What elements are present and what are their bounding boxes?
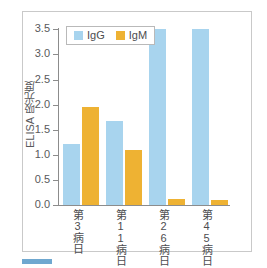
y-tick-label: 2.0 <box>35 99 50 110</box>
y-tick: 2.0 <box>53 105 58 106</box>
bar-igm <box>168 199 185 205</box>
figure-root: ELISA 吸光度 3.5 3.0 2.5 2.0 1.5 1.0 0.5 0.… <box>0 0 267 268</box>
x-axis-label: 第11病日 <box>114 209 126 257</box>
y-tick: 1.0 <box>53 155 58 156</box>
x-axis-line <box>58 205 230 206</box>
y-tick-label: 0.0 <box>35 199 50 210</box>
legend-swatch-icon <box>116 31 125 40</box>
y-tick: 2.5 <box>53 80 58 81</box>
legend-item-igm: IgM <box>116 30 147 41</box>
bar-igg <box>63 144 80 205</box>
bar-igm <box>82 107 99 205</box>
bar-group <box>59 29 102 205</box>
legend-label: IgM <box>129 30 147 41</box>
bar-group <box>102 29 145 205</box>
y-tick-label: 3.5 <box>35 23 50 34</box>
bar-igg <box>106 121 123 205</box>
y-tick: 3.0 <box>53 54 58 55</box>
y-tick: 0.5 <box>53 180 58 181</box>
bottom-edge-marker <box>22 259 52 264</box>
bar-group <box>145 29 188 205</box>
x-axis-label: 第3病日 <box>71 209 83 257</box>
legend-label: IgG <box>87 30 105 41</box>
legend: IgG IgM <box>66 26 155 45</box>
x-axis-label: 第26病日 <box>157 209 169 257</box>
y-tick-label: 1.0 <box>35 149 50 160</box>
plot-area <box>59 29 229 205</box>
y-tick-label: 2.5 <box>35 74 50 85</box>
x-axis-label: 第45病日 <box>200 209 212 257</box>
bar-igg <box>192 29 209 205</box>
bar-igg <box>149 29 166 205</box>
y-tick: 0.0 <box>53 205 58 206</box>
bar-igm <box>125 150 142 205</box>
y-tick-label: 1.5 <box>35 124 50 135</box>
bar-group <box>188 29 231 205</box>
legend-swatch-icon <box>74 31 83 40</box>
y-tick-label: 0.5 <box>35 174 50 185</box>
legend-item-igg: IgG <box>74 30 105 41</box>
y-tick: 1.5 <box>53 130 58 131</box>
y-tick: 3.5 <box>53 29 58 30</box>
y-tick-label: 3.0 <box>35 48 50 59</box>
bar-igm <box>211 200 228 205</box>
